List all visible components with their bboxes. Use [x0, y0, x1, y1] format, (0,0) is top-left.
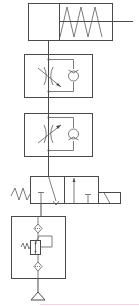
flow-control-valve-1-icon [25, 55, 93, 98]
pneumatic-circuit [0, 0, 139, 306]
frl-unit-icon [12, 217, 66, 279]
air-source-icon [31, 292, 45, 300]
divider-line [40, 304, 139, 305]
directional-valve-icon [11, 177, 121, 206]
flow-control-valve-2-icon [25, 114, 93, 157]
cylinder-icon [29, 4, 134, 41]
